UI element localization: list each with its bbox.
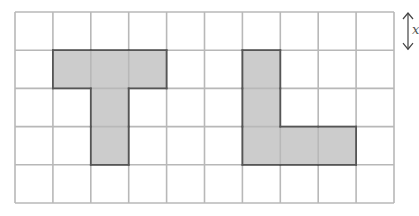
l-shape-cell [242,50,280,88]
t-shape-cell [91,50,129,88]
t-shape-cell [91,88,129,126]
l-shape-cell [280,127,318,165]
l-shape-cell [318,127,356,165]
l-shape-cell [242,88,280,126]
t-shape-cell [129,50,167,88]
t-shape-cell [53,50,91,88]
dimension-label: x [412,22,419,37]
t-shape-cell [91,127,129,165]
l-shape-cell [242,127,280,165]
